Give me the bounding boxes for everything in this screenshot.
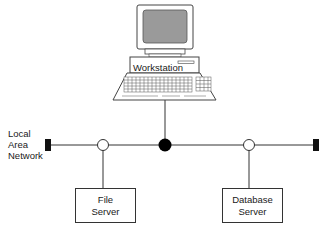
database-server-label-line-1: Database (232, 194, 273, 206)
workstation-label: Workstation (133, 62, 183, 73)
database-server-tap-icon (244, 140, 255, 151)
workstation-tap-icon (159, 139, 172, 152)
network-label-line-3: Network (8, 150, 43, 161)
file-server-label-line-1: File (98, 194, 113, 206)
network-label: Local Area Network (8, 128, 43, 161)
workstation-computer-icon (113, 5, 216, 100)
file-server-label-line-2: Server (92, 206, 120, 218)
file-server-box: File Server (75, 188, 136, 223)
database-server-label-line-2: Server (239, 206, 267, 218)
database-server-box: Database Server (222, 188, 283, 223)
left-terminator-icon (45, 139, 51, 151)
network-label-line-1: Local (8, 128, 43, 139)
file-server-tap-icon (98, 140, 109, 151)
right-terminator-icon (313, 139, 319, 151)
network-label-line-2: Area (8, 139, 43, 150)
